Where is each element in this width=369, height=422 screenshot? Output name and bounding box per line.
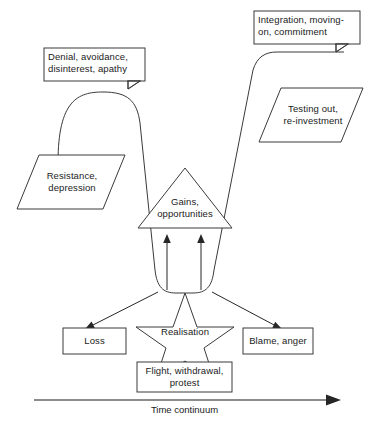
gains-arrow-right	[197, 234, 205, 290]
loss-arrow	[85, 292, 158, 329]
gains-triangle-label: Gains, opportunities	[140, 196, 230, 219]
flight-box-label: Flight, withdrawal, protest	[137, 365, 232, 388]
gains-arrow-left	[163, 234, 171, 290]
testing-out-parallelogram-label: Testing out, re-investment	[268, 103, 358, 126]
loss-box-label: Loss	[63, 335, 126, 347]
diagram-canvas: Denial, avoidance, disinterest, apathy I…	[0, 0, 369, 422]
blame-anger-arrow	[212, 292, 282, 329]
blame-anger-box-label: Blame, anger	[243, 335, 313, 347]
time-axis-label: Time continuum	[0, 404, 369, 415]
resistance-parallelogram-label: Resistance, depression	[27, 170, 117, 193]
denial-callout-label: Denial, avoidance, disinterest, apathy	[48, 51, 143, 74]
realisation-star-label: Realisation	[140, 326, 230, 338]
integration-callout-label: Integration, moving- on, commitment	[258, 14, 358, 37]
